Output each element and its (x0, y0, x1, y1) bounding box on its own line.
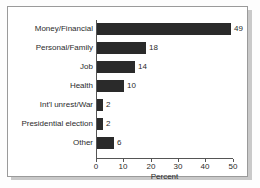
x-axis-label: Percent (96, 172, 233, 182)
table-row: Job 14 (8, 58, 249, 77)
category-label-personal-family: Personal/Family (36, 43, 93, 53)
bar-money-financial (97, 23, 231, 35)
x-tick-label-0: 0 (94, 162, 98, 172)
value-label-personal-family: 18 (149, 43, 158, 53)
value-label-intl-unrest-war: 2 (106, 100, 110, 110)
chart-figure: 0 10 20 30 40 50 Percent Money/Financial… (0, 0, 260, 188)
x-tick-label-10: 10 (119, 162, 128, 172)
bar-presidential-election (97, 118, 103, 130)
bar-other (97, 137, 114, 149)
category-label-health: Health (70, 81, 93, 91)
table-row: Presidential election 2 (8, 115, 249, 134)
x-tick-label-20: 20 (147, 162, 156, 172)
x-axis-line (96, 158, 233, 159)
category-label-money-financial: Money/Financial (35, 24, 93, 34)
x-tick-label-30: 30 (174, 162, 183, 172)
bar-intl-unrest-war (97, 99, 103, 111)
chart-frame: 0 10 20 30 40 50 Percent Money/Financial… (7, 6, 248, 177)
category-label-presidential-election: Presidential election (21, 119, 93, 129)
table-row: Int'l unrest/War 2 (8, 96, 249, 115)
x-tick-label-40: 40 (201, 162, 210, 172)
category-label-intl-unrest-war: Int'l unrest/War (40, 100, 93, 110)
bar-job (97, 61, 135, 73)
plot-area: 0 10 20 30 40 50 Percent Money/Financial… (8, 7, 249, 178)
bar-personal-family (97, 42, 146, 54)
value-label-presidential-election: 2 (106, 119, 110, 129)
table-row: Health 10 (8, 77, 249, 96)
bar-health (97, 80, 124, 92)
x-tick-label-50: 50 (229, 162, 238, 172)
table-row: Money/Financial 49 (8, 20, 249, 39)
value-label-job: 14 (138, 62, 147, 72)
category-label-other: Other (73, 138, 93, 148)
value-label-health: 10 (127, 81, 136, 91)
table-row: Other 6 (8, 134, 249, 153)
table-row: Personal/Family 18 (8, 39, 249, 58)
value-label-money-financial: 49 (234, 24, 243, 34)
category-label-job: Job (80, 62, 93, 72)
value-label-other: 6 (117, 138, 121, 148)
